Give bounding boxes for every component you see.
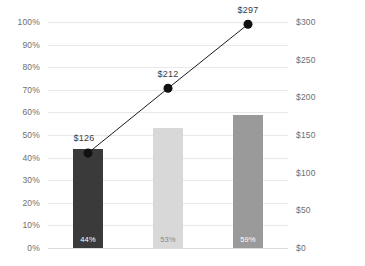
line-marker-1	[84, 149, 93, 158]
line-marker-3	[244, 20, 253, 29]
right-axis-tick: $200	[296, 93, 316, 102]
combo-bar-line-chart: 0%10%20%30%40%50%60%70%80%90%100% $0$50$…	[0, 0, 365, 266]
left-axis-percent: 0%10%20%30%40%50%60%70%80%90%100%	[0, 22, 40, 248]
left-axis-tick: 30%	[22, 176, 40, 185]
line-value-label-1: $126	[73, 134, 94, 143]
left-axis-tick: 40%	[22, 153, 40, 162]
left-axis-tick: 60%	[22, 108, 40, 117]
left-axis-tick: 80%	[22, 63, 40, 72]
left-axis-tick: 70%	[22, 86, 40, 95]
left-axis-tick: 10%	[22, 221, 40, 230]
right-axis-currency: $0$50$100$150$200$250$300	[296, 22, 356, 248]
left-axis-tick: 100%	[17, 18, 40, 27]
line-marker-2	[164, 84, 173, 93]
gridline-0	[48, 248, 288, 249]
left-axis-tick: 0%	[27, 244, 40, 253]
right-axis-tick: $0	[296, 244, 306, 253]
line-value-label-3: $297	[237, 6, 258, 15]
right-axis-tick: $300	[296, 18, 316, 27]
left-axis-tick: 50%	[22, 131, 40, 140]
right-axis-tick: $50	[296, 206, 311, 215]
right-axis-tick: $150	[296, 131, 316, 140]
right-axis-tick: $250	[296, 55, 316, 64]
right-axis-tick: $100	[296, 168, 316, 177]
left-axis-tick: 20%	[22, 199, 40, 208]
left-axis-tick: 90%	[22, 40, 40, 49]
plot-area: 44%53%59% $126$212$297	[48, 22, 288, 248]
line-value-label-2: $212	[157, 70, 178, 79]
